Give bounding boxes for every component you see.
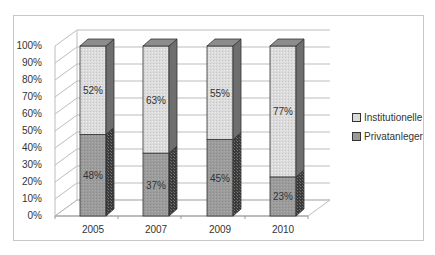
plot-area: 48%52%37%63%45%55%23%77% xyxy=(0,0,435,255)
x-tick-label: 2009 xyxy=(200,224,240,235)
legend-label-privatanleger: Privatanleger xyxy=(364,131,423,142)
bar-2010: 23%77% xyxy=(270,39,304,216)
legend-item-institutionelle: Institutionelle xyxy=(352,112,422,123)
data-label-institutionelle: 77% xyxy=(273,106,293,117)
y-tick-label: 70% xyxy=(8,91,42,102)
data-label-privatanleger: 48% xyxy=(83,170,103,181)
y-tick-label: 90% xyxy=(8,57,42,68)
data-label-institutionelle: 52% xyxy=(83,85,103,96)
bar-2007: 37%63% xyxy=(143,39,177,216)
y-tick-label: 60% xyxy=(8,108,42,119)
x-tick-label: 2010 xyxy=(263,224,303,235)
y-tick-label: 50% xyxy=(8,125,42,136)
data-label-institutionelle: 63% xyxy=(146,95,166,106)
y-tick-label: 30% xyxy=(8,159,42,170)
legend-swatch-institutionelle xyxy=(352,113,361,122)
legend-label-institutionelle: Institutionelle xyxy=(364,112,422,123)
y-tick-label: 80% xyxy=(8,74,42,85)
y-tick-label: 10% xyxy=(8,193,42,204)
y-tick-label: 100% xyxy=(8,40,42,51)
x-tick-label: 2007 xyxy=(136,224,176,235)
data-label-privatanleger: 45% xyxy=(210,173,230,184)
bar-2005: 48%52% xyxy=(80,39,114,216)
x-tick-label: 2005 xyxy=(73,224,113,235)
y-tick-label: 20% xyxy=(8,176,42,187)
legend-swatch-privatanleger xyxy=(352,132,361,141)
y-tick-label: 40% xyxy=(8,142,42,153)
bar-2009: 45%55% xyxy=(207,39,241,216)
data-label-privatanleger: 23% xyxy=(273,191,293,202)
legend-item-privatanleger: Privatanleger xyxy=(352,131,423,142)
data-label-institutionelle: 55% xyxy=(210,88,230,99)
data-label-privatanleger: 37% xyxy=(146,180,166,191)
y-tick-label: 0% xyxy=(8,210,42,221)
